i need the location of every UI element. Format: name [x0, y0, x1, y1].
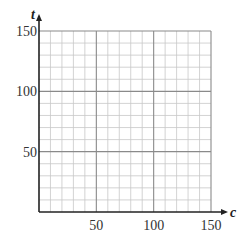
x-axis-arrow-icon	[221, 209, 228, 215]
y-tick-labels: 50100150	[16, 24, 37, 160]
x-axis-label: c	[230, 205, 237, 220]
x-tick-label: 150	[201, 218, 222, 233]
x-tick-label: 50	[89, 218, 103, 233]
major-grid-lines	[39, 31, 211, 212]
x-tick-label: 100	[143, 218, 164, 233]
minor-grid-lines	[39, 31, 211, 212]
blank-coordinate-grid: 50100150 50100150 c t	[0, 0, 244, 237]
y-axis-arrow-icon	[36, 14, 42, 21]
x-tick-labels: 50100150	[89, 218, 221, 233]
y-tick-label: 150	[16, 24, 37, 39]
y-tick-label: 50	[23, 145, 37, 160]
y-tick-label: 100	[16, 84, 37, 99]
y-axis-label: t	[31, 7, 36, 22]
